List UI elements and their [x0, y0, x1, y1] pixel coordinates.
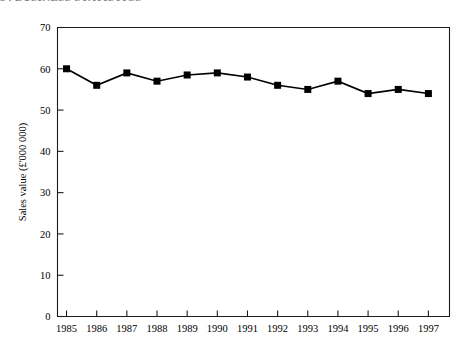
- y-axis-tick-label: 50: [40, 105, 51, 116]
- chart-svg: 010203040506070 198519861987198819891990…: [0, 0, 461, 350]
- data-point-marker: [214, 69, 221, 76]
- y-axis-tick-label: 60: [40, 64, 51, 75]
- x-axis-tick-label: 1992: [267, 323, 288, 334]
- y-axis-tick-label: 10: [40, 270, 51, 281]
- x-axis-tick-label: 1990: [207, 323, 228, 334]
- data-point-marker: [365, 90, 372, 97]
- x-axis-tick-label: 1995: [358, 323, 379, 334]
- x-axis-tick-label: 1985: [56, 323, 77, 334]
- plot-frame: [58, 28, 450, 317]
- y-axis: 010203040506070: [40, 22, 64, 322]
- y-axis-title: Sales value (£'000 000): [17, 122, 29, 221]
- sales-value-line-chart: 010203040506070 198519861987198819891990…: [0, 0, 461, 350]
- x-axis-tick-label: 1993: [297, 323, 318, 334]
- data-point-marker: [425, 90, 432, 97]
- data-point-marker: [154, 78, 161, 85]
- data-point-marker: [395, 86, 402, 93]
- data-point-marker: [304, 86, 311, 93]
- y-axis-tick-label: 40: [40, 146, 51, 157]
- data-point-marker: [334, 78, 341, 85]
- x-axis: 1985198619871988198919901991199219931994…: [56, 311, 439, 334]
- x-axis-tick-label: 1989: [177, 323, 198, 334]
- x-axis-tick-label: 1987: [116, 323, 137, 334]
- x-axis-tick-label: 1986: [86, 323, 107, 334]
- data-point-marker: [123, 69, 130, 76]
- y-axis-tick-label: 70: [40, 22, 51, 33]
- x-axis-tick-label: 1997: [418, 323, 439, 334]
- x-axis-tick-label: 1994: [327, 323, 349, 334]
- y-axis-tick-label: 0: [45, 311, 50, 322]
- x-axis-tick-label: 1996: [388, 323, 409, 334]
- y-axis-tick-label: 20: [40, 229, 51, 240]
- x-axis-tick-label: 1988: [147, 323, 168, 334]
- series-line-sales-value: [67, 69, 429, 94]
- data-point-marker: [63, 65, 70, 72]
- data-point-marker: [93, 82, 100, 89]
- x-axis-tick-label: 1991: [237, 323, 258, 334]
- data-point-marker: [274, 82, 281, 89]
- y-axis-tick-label: 30: [40, 187, 51, 198]
- data-point-marker: [244, 74, 251, 81]
- data-point-marker: [184, 71, 191, 78]
